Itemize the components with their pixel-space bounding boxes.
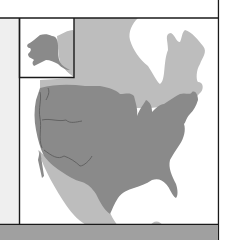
right-margin <box>220 0 227 240</box>
alaska-inset <box>19 18 74 78</box>
bottom-band <box>0 225 218 240</box>
left-margin <box>0 18 19 225</box>
map-canvas <box>0 0 226 240</box>
range-map <box>0 0 226 240</box>
